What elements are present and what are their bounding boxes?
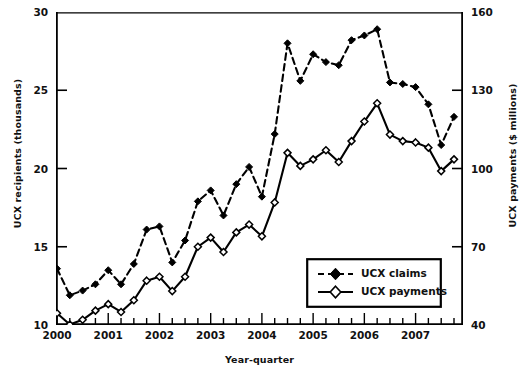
data-point (361, 32, 368, 39)
data-point (156, 223, 163, 230)
data-point (207, 187, 214, 194)
data-point (66, 292, 73, 299)
data-point (297, 77, 304, 84)
data-point (220, 212, 227, 219)
x-axis-tick-2003: 2003 (191, 329, 231, 341)
data-point (412, 84, 419, 91)
legend-label-1: UCX payments (361, 285, 447, 297)
x-axis-tick-2006: 2006 (344, 329, 384, 341)
data-point (348, 37, 355, 44)
data-point (56, 265, 61, 272)
x-axis-tick-2000: 2000 (37, 329, 77, 341)
y-axis-right-tick-100: 100 (471, 163, 501, 175)
y-axis-right-tick-160: 160 (471, 6, 501, 18)
y-axis-right-title: UCX payments ($ millions) (507, 71, 518, 241)
chart-figure: UCX recipients (thousands) UCX payments … (0, 0, 524, 374)
data-point (284, 40, 291, 47)
x-axis-tick-2007: 2007 (396, 329, 436, 341)
data-point (399, 80, 406, 87)
x-axis-ticks (57, 313, 454, 324)
data-point (79, 287, 86, 294)
data-point (386, 79, 393, 86)
data-point (438, 142, 445, 149)
data-point (412, 139, 419, 146)
data-point (386, 131, 393, 138)
legend-svg (306, 258, 442, 308)
y-axis-left-ticks (57, 90, 67, 247)
x-axis-tick-2004: 2004 (242, 329, 282, 341)
y-axis-left-tick-30: 30 (22, 6, 48, 18)
y-axis-right-tick-40: 40 (471, 319, 501, 331)
y-axis-right-tick-70: 70 (471, 241, 501, 253)
x-axis-tick-2005: 2005 (293, 329, 333, 341)
x-axis-tick-2002: 2002 (139, 329, 179, 341)
x-axis-title: Year-quarter (56, 354, 463, 365)
data-point (258, 193, 265, 200)
y-axis-left-tick-25: 25 (22, 84, 48, 96)
y-axis-left-tick-20: 20 (22, 163, 48, 175)
y-axis-left-tick-15: 15 (22, 241, 48, 253)
legend-label-0: UCX claims (361, 267, 427, 279)
data-point (335, 62, 342, 69)
y-axis-left-title: UCX recipients (thousands) (12, 74, 23, 234)
data-point (130, 260, 137, 267)
data-point (143, 226, 150, 233)
data-point (271, 131, 278, 138)
data-point (374, 26, 381, 33)
data-point (169, 259, 176, 266)
data-point (451, 113, 458, 120)
y-axis-right-tick-130: 130 (471, 84, 501, 96)
data-point (271, 199, 278, 206)
data-point (399, 138, 406, 145)
chart-legend: UCX claims UCX payments (306, 258, 442, 308)
x-axis-tick-2001: 2001 (88, 329, 128, 341)
